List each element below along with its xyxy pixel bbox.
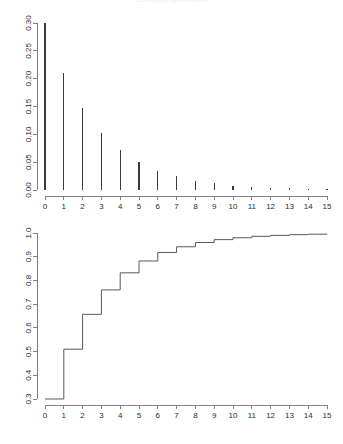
pmf-x-tick-label: 0 [43,202,48,211]
cdf-x-tick-label: 12 [266,411,275,420]
pmf-x-tick-label: 9 [212,202,217,211]
pmf-y-tick-label: 0.25 [24,43,33,59]
pmf-x-tick-label: 13 [285,202,294,211]
pmf-y-tick-label: 0.20 [24,70,33,86]
cdf-y-tick-label: 0.5 [24,345,33,357]
pmf-x-tick-label: 5 [137,202,142,211]
cdf-y-tick-label: 1.0 [24,227,33,239]
pmf-x-tick-label: 3 [99,202,104,211]
figure-canvas: Geometric Distribution 0.000.050.100.150… [0,0,343,444]
pmf-y-tick-label: 0.30 [24,15,33,31]
cdf-y-tick-label: 0.6 [24,322,33,334]
cdf-x-tick-label: 0 [43,411,48,420]
cdf-y-tick-label: 0.3 [24,393,33,405]
cdf-y-tick-label: 0.8 [24,274,33,286]
cdf-panel: 0.30.40.50.60.70.80.91.00123456789101112… [0,215,343,444]
cdf-x-tick-label: 5 [137,411,142,420]
cdf-x-tick-label: 3 [99,411,104,420]
pmf-x-tick-label: 1 [62,202,67,211]
pmf-y-tick-label: 0.15 [24,98,33,114]
pmf-x-tick-label: 6 [156,202,161,211]
pmf-x-tick-label: 12 [266,202,275,211]
pmf-y-tick-label: 0.05 [24,154,33,170]
pmf-y-tick-label: 0.10 [24,126,33,142]
pmf-x-tick-label: 2 [80,202,85,211]
pmf-x-tick-label: 11 [248,202,257,211]
cdf-x-tick-label: 14 [304,411,313,420]
pmf-panel: 0.000.050.100.150.200.250.30012345678910… [0,0,343,215]
pmf-x-tick-label: 7 [174,202,179,211]
cdf-y-tick-label: 0.7 [24,298,33,310]
pmf-y-tick-label: 0.00 [24,182,33,198]
pmf-plot: 0.000.050.100.150.200.250.30012345678910… [0,0,343,215]
cdf-x-tick-label: 10 [229,411,238,420]
cdf-x-tick-label: 11 [248,411,257,420]
cdf-x-tick-label: 1 [62,411,67,420]
cdf-x-tick-label: 7 [174,411,179,420]
cdf-y-tick-label: 0.4 [24,369,33,381]
cdf-x-tick-label: 4 [118,411,123,420]
cdf-x-tick-label: 6 [156,411,161,420]
pmf-x-tick-label: 4 [118,202,123,211]
pmf-x-tick-label: 14 [304,202,313,211]
pmf-x-tick-label: 8 [193,202,198,211]
pmf-x-tick-label: 15 [323,202,332,211]
pmf-x-tick-label: 10 [229,202,238,211]
cdf-y-tick-label: 0.9 [24,251,33,263]
cdf-x-tick-label: 8 [193,411,198,420]
cdf-x-tick-label: 9 [212,411,217,420]
cdf-plot: 0.30.40.50.60.70.80.91.00123456789101112… [0,215,343,444]
cdf-x-tick-label: 15 [323,411,332,420]
cdf-step-line [45,234,327,399]
cdf-x-tick-label: 13 [285,411,294,420]
cdf-x-tick-label: 2 [80,411,85,420]
